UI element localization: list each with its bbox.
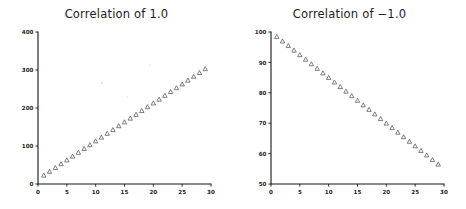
data-point-marker [145,105,149,109]
x-tick-label: 30 [440,189,448,195]
data-point-marker [344,89,348,93]
data-point-marker [309,62,313,66]
x-tick-label: 20 [382,189,390,195]
data-series-markers [42,67,208,177]
x-tick-label: 15 [121,189,129,195]
data-point-marker [122,120,126,124]
data-point-marker [384,121,388,125]
x-tick-label: 5 [65,189,69,195]
data-point-marker [111,127,115,131]
x-tick-label: 0 [36,189,40,195]
data-point-marker [163,93,167,97]
data-point-marker [378,116,382,120]
x-tick-label: 25 [178,189,186,195]
data-point-marker [419,148,423,152]
scatter-plot-negative: 5060708090100051015202530 [233,0,466,209]
data-point-marker [157,97,161,101]
y-tick-label: 90 [259,60,267,66]
data-point-marker [321,71,325,75]
scan-speck [126,96,127,97]
data-point-marker [367,107,371,111]
data-point-marker [413,144,417,148]
data-point-marker [47,169,51,173]
data-point-marker [70,154,74,158]
data-point-marker [93,139,97,143]
data-point-marker [65,158,69,162]
scatter-plot-positive: 0100200300400051015202530 [0,0,233,209]
data-point-marker [292,48,296,52]
x-tick-label: 0 [269,189,273,195]
data-point-marker [180,82,184,86]
data-point-marker [99,135,103,139]
data-point-marker [361,103,365,107]
scan-speck [101,82,103,84]
data-point-marker [390,126,394,130]
axis-spines [38,32,211,184]
figure-canvas: Correlation of 1.0 010020030040005101520… [0,0,466,209]
y-tick-label: 100 [22,143,34,149]
data-point-marker [59,162,63,166]
x-tick-label: 20 [149,189,157,195]
x-tick-label: 10 [325,189,333,195]
data-point-marker [88,143,92,147]
chart-panel-correlation-positive: Correlation of 1.0 010020030040005101520… [0,0,233,209]
x-tick-label: 10 [92,189,100,195]
data-point-marker [134,112,138,116]
data-point-marker [286,43,290,47]
data-point-marker [53,165,57,169]
data-point-marker [140,108,144,112]
data-point-marker [76,150,80,154]
y-tick-label: 100 [255,29,267,35]
data-point-marker [128,116,132,120]
data-point-marker [401,135,405,139]
data-series-markers [275,34,441,166]
y-tick-label: 300 [22,67,34,73]
y-tick-label: 80 [259,90,267,96]
data-point-marker [373,112,377,116]
data-point-marker [396,130,400,134]
y-tick-label: 200 [22,105,34,111]
x-tick-label: 15 [354,189,362,195]
y-tick-label: 400 [22,29,34,35]
data-point-marker [430,157,434,161]
data-point-marker [350,94,354,98]
data-point-marker [192,74,196,78]
data-point-marker [315,66,319,70]
x-tick-label: 5 [298,189,302,195]
data-point-marker [298,53,302,57]
chart-panel-correlation-negative: Correlation of −1.0 50607080901000510152… [233,0,466,209]
y-tick-label: 50 [259,181,267,187]
axis-spines [271,32,444,184]
data-point-marker [168,89,172,93]
data-point-marker [151,101,155,105]
data-point-marker [186,78,190,82]
x-tick-label: 30 [207,189,215,195]
y-tick-label: 0 [30,181,34,187]
data-point-marker [303,57,307,61]
data-point-marker [275,34,279,38]
data-point-marker [203,67,207,71]
data-point-marker [197,70,201,74]
data-point-marker [117,124,121,128]
y-tick-label: 60 [259,151,267,157]
data-point-marker [82,146,86,150]
data-point-marker [332,80,336,84]
data-point-marker [355,98,359,102]
data-point-marker [436,162,440,166]
data-point-marker [326,75,330,79]
scan-speck [149,64,150,65]
data-point-marker [174,86,178,90]
data-point-marker [42,173,46,177]
data-point-marker [425,153,429,157]
x-tick-label: 25 [411,189,419,195]
y-tick-label: 70 [259,120,267,126]
data-point-marker [338,85,342,89]
data-point-marker [407,139,411,143]
data-point-marker [280,39,284,43]
data-point-marker [105,131,109,135]
